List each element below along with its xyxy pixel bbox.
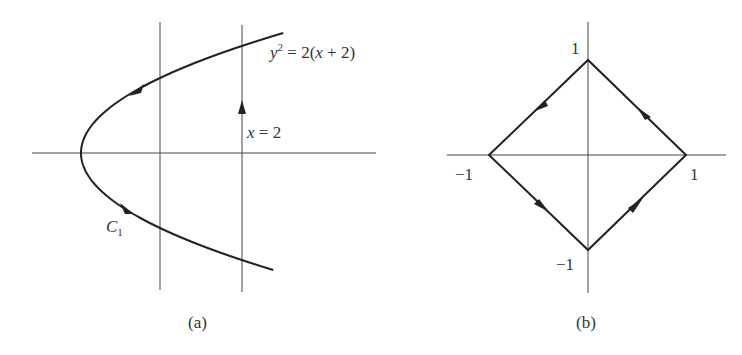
caption-b: (b): [576, 314, 596, 331]
tick-label-bottom: −1: [556, 256, 574, 273]
tick-label-right: 1: [690, 166, 699, 183]
panel-a: [32, 22, 376, 292]
arrow-top-to-left-icon: [535, 100, 548, 111]
contour-c1-label: C1: [106, 218, 123, 238]
arrow-lower-branch-icon: [120, 203, 134, 214]
tick-label-top: 1: [571, 40, 580, 57]
line-equation-label: x = 2: [247, 124, 281, 141]
caption-a: (a): [188, 314, 207, 331]
parabola-equation-label: y2 = 2(x + 2): [270, 42, 355, 61]
figure-canvas: [0, 0, 742, 355]
arrow-bottom-to-right-icon: [628, 198, 643, 213]
arrow-up-x2-icon: [238, 100, 246, 114]
tick-label-left: −1: [455, 166, 473, 183]
panel-b: [447, 22, 726, 293]
